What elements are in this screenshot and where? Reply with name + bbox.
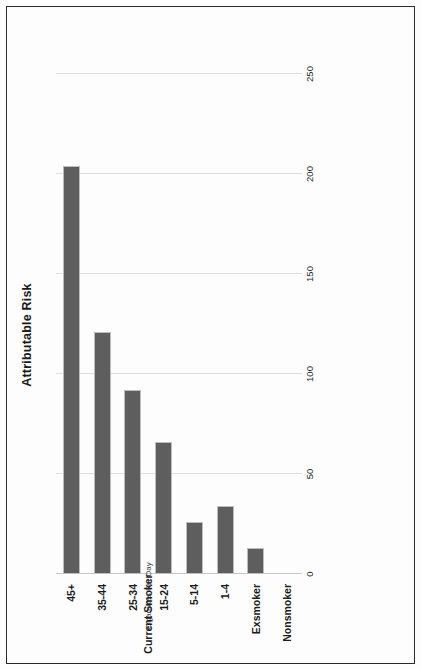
chart-title: Attributable Risk (20, 12, 34, 658)
bar-row (62, 54, 79, 574)
value-tick-label-50: 50 (304, 469, 315, 480)
category-label-35-44: 35-44 (96, 584, 108, 611)
bar-25-34[interactable] (124, 390, 141, 574)
value-tick-label-100: 100 (304, 366, 315, 382)
category-label-5-14: 5-14 (188, 584, 200, 605)
bar-chart: Attributable Risk 050100150200250 Nonsmo… (12, 12, 410, 658)
bar-series (56, 54, 302, 574)
plot-area (56, 54, 302, 574)
bar-1-4[interactable] (216, 506, 233, 574)
bar-45-[interactable] (62, 166, 79, 574)
value-tick-label-250: 250 (304, 66, 315, 82)
group-label-cigarettes-per-day: Cigarettes Per Day (143, 562, 152, 630)
bar-row (155, 54, 172, 574)
category-label-nonsmoker: Nonsmoker (280, 584, 292, 642)
value-tick-label-150: 150 (304, 266, 315, 282)
bar-15-24[interactable] (155, 442, 172, 574)
bar-row (124, 54, 141, 574)
bar-row (278, 54, 295, 574)
bar-row (247, 54, 264, 574)
category-label-exsmoker: Exsmoker (249, 584, 261, 634)
chart-page: Attributable Risk 050100150200250 Nonsmo… (0, 0, 421, 670)
bar-5-14[interactable] (185, 522, 202, 574)
value-tick-label-200: 200 (304, 166, 315, 182)
bar-row (93, 54, 110, 574)
category-label-1-4: 1-4 (219, 584, 231, 599)
rotated-chart-stage: Attributable Risk 050100150200250 Nonsmo… (0, 0, 421, 670)
category-label-25-34: 25-34 (126, 584, 138, 611)
category-label-45-: 45+ (65, 584, 77, 602)
bar-35-44[interactable] (93, 332, 110, 574)
bar-row (185, 54, 202, 574)
value-axis-ticks: 050100150200250 (304, 54, 326, 574)
rotated-chart-wrapper: Attributable Risk 050100150200250 Nonsmo… (12, 12, 410, 658)
bar-exsmoker[interactable] (247, 548, 264, 574)
bar-row (216, 54, 233, 574)
category-axis-labels: NonsmokerExsmoker1-45-1415-2425-3435-444… (56, 578, 302, 658)
category-label-15-24: 15-24 (157, 584, 169, 611)
value-tick-label-0: 0 (304, 571, 315, 576)
